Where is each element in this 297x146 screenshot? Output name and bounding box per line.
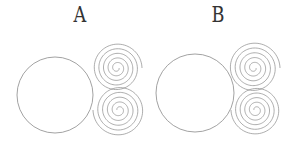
diagram-canvas	[0, 0, 297, 146]
top-spiral	[230, 43, 280, 90]
panel-a	[17, 44, 143, 135]
top-spiral	[94, 44, 142, 89]
large-circle	[17, 57, 93, 133]
large-circle	[156, 54, 234, 132]
panel-b	[156, 43, 280, 134]
bottom-spiral	[93, 88, 143, 135]
bottom-spiral	[231, 88, 279, 133]
